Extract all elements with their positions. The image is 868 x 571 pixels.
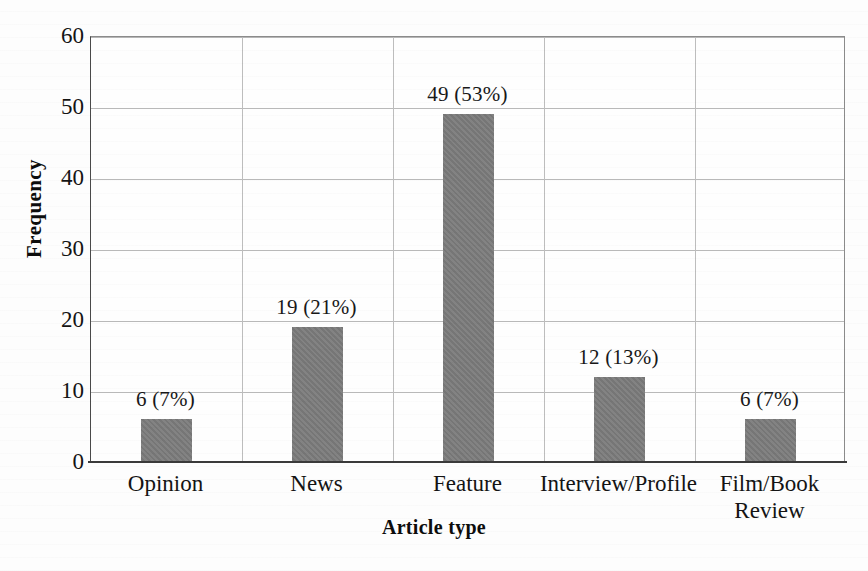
bar-data-label: 6 (7%) [86, 389, 246, 410]
bar [594, 377, 645, 462]
gridline-horizontal [91, 108, 844, 109]
bar [292, 327, 343, 462]
bar-data-label: 19 (21%) [237, 297, 397, 318]
bar [443, 114, 494, 462]
bar [141, 419, 192, 462]
y-axis-tick-label: 40 [18, 166, 84, 189]
bar-data-label: 6 (7%) [690, 389, 850, 410]
x-axis-line [88, 461, 847, 463]
y-axis-tick-label: 10 [18, 379, 84, 402]
bar-data-label: 12 (13%) [539, 347, 699, 368]
bar-chart-figure: Frequency 0102030405060 OpinionNewsFeatu… [0, 0, 868, 571]
bar [745, 419, 796, 462]
x-axis-title: Article type [0, 516, 868, 539]
y-axis-tick-labels: 0102030405060 [12, 0, 84, 571]
y-axis-tick-label: 0 [18, 450, 84, 473]
y-axis-tick-label: 30 [18, 237, 84, 260]
y-axis-tick-label: 20 [18, 308, 84, 331]
gridline-horizontal [91, 37, 844, 38]
y-axis-tick-label: 50 [18, 95, 84, 118]
bar-data-label: 49 (53%) [388, 84, 548, 105]
y-axis-tick-label: 60 [18, 24, 84, 47]
